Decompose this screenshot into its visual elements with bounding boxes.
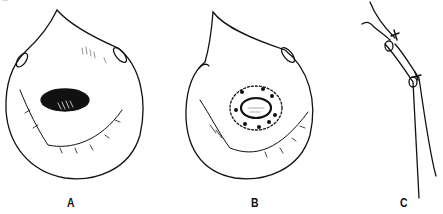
panel-a-lesion [41,89,89,111]
panel-label-c: C [400,195,408,210]
panel-c-drawing [362,2,436,198]
panel-b-drawing [186,12,313,179]
figure-illustration [0,0,443,214]
panel-label-b: B [251,195,259,210]
panel-label-a: A [67,195,75,210]
